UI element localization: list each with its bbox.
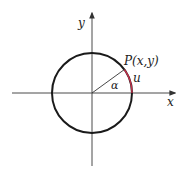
arc-label: u bbox=[133, 71, 141, 85]
x-axis-label: x bbox=[167, 95, 174, 109]
angle-label: α bbox=[111, 79, 119, 92]
y-axis-label: y bbox=[77, 16, 85, 30]
unit-circle-diagram: y x P(x,y) u α bbox=[0, 0, 192, 177]
point-label: P(x,y) bbox=[123, 54, 159, 68]
radius-line bbox=[92, 70, 124, 94]
